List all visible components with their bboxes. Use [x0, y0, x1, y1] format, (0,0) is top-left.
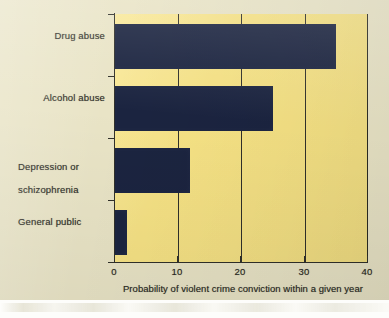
figure-root: Drug abuse Alcohol abuse Depression or s…	[0, 0, 389, 318]
x-axis-line	[114, 262, 368, 263]
x-tick-label-30: 30	[289, 266, 319, 277]
x-tick-label-20: 20	[225, 266, 255, 277]
x-tick-30	[304, 256, 305, 263]
page-bottom-margin	[0, 300, 389, 318]
x-axis-title: Probability of violent crime conviction …	[114, 283, 372, 294]
bar-drug-abuse	[114, 24, 336, 69]
bar-depression-schizophrenia	[114, 148, 190, 193]
x-tick-label-10: 10	[162, 266, 192, 277]
x-tick-label-0: 0	[99, 266, 129, 277]
x-tick-40	[367, 256, 368, 263]
x-tick-10	[177, 256, 178, 263]
category-label-depression-schizophrenia: Depression or schizophrenia	[18, 149, 113, 195]
category-label-alcohol-abuse: Alcohol abuse	[10, 92, 105, 104]
x-tick-0	[114, 256, 115, 263]
y-tick-0	[108, 14, 115, 15]
y-tick-1	[108, 76, 115, 77]
category-label-drug-abuse: Drug abuse	[10, 30, 105, 42]
x-tick-20	[240, 256, 241, 263]
category-label-depression-line2: schizophrenia	[18, 184, 79, 195]
plot-area	[114, 14, 368, 262]
category-label-general-public: General public	[18, 216, 113, 228]
category-label-depression-line1: Depression or	[18, 161, 79, 172]
x-tick-label-40: 40	[352, 266, 382, 277]
bar-general-public	[114, 210, 127, 255]
y-tick-2	[108, 138, 115, 139]
bar-alcohol-abuse	[114, 86, 273, 131]
y-tick-3	[108, 200, 115, 201]
